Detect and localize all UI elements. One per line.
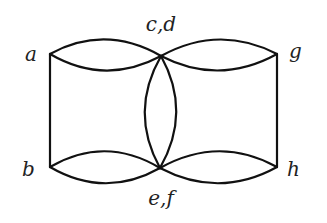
edge-a-cd-lower [50, 54, 161, 71]
vertex-label-cd: c,d [146, 12, 176, 36]
vertex-label-g: g [289, 39, 302, 63]
edge-ef-h-lower [160, 167, 277, 183]
edge-b-ef-lower [50, 167, 160, 183]
edge-cd-ef-right [160, 56, 176, 168]
edge-a-cd-upper [50, 39, 161, 56]
edge-cd-ef-left [145, 56, 161, 168]
graph-canvas: a b c,d e,f g h [0, 0, 327, 223]
edge-ef-h-upper [160, 151, 277, 168]
edge-b-ef-upper [50, 151, 160, 168]
vertex-label-h: h [287, 157, 300, 181]
vertex-label-b: b [22, 157, 35, 181]
edge-cd-g-lower [161, 54, 277, 71]
vertex-label-a: a [25, 42, 37, 66]
graph-diagram: a b c,d e,f g h [0, 0, 327, 223]
vertex-label-ef: e,f [148, 186, 177, 210]
edge-cd-g-upper [161, 39, 277, 56]
